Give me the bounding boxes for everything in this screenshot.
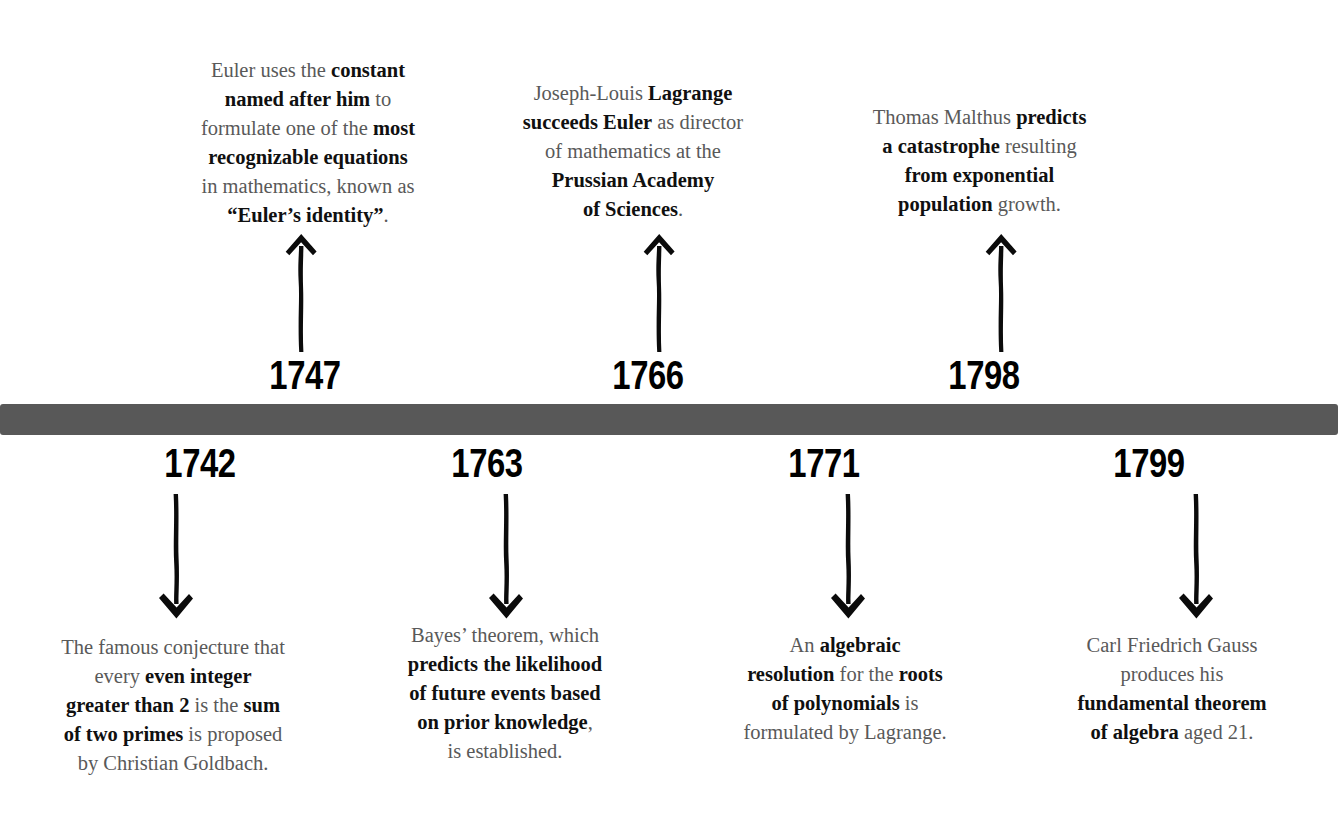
event-text-line: Euler uses the constant [143,56,473,85]
year-label-1742: 1742 [118,443,282,483]
timeline-spine-bar [0,404,1338,435]
body-text: formulate one of the [201,117,373,139]
event-text-line: formulated by Lagrange. [685,718,1005,747]
emphasis-text: constant [331,59,405,81]
body-text: is [900,692,919,714]
event-text-line: of polynomials is [685,689,1005,718]
year-label-1798: 1798 [902,355,1066,395]
up-arrow-icon [973,232,1029,354]
event-description-1798: Thomas Malthus predictsa catastrophe res… [822,103,1137,219]
body-text: produces his [1120,663,1223,685]
event-text-line: in mathematics, known as [143,172,473,201]
body-text: is established. [447,740,562,762]
event-text-line: of algebra aged 21. [1012,718,1332,747]
up-arrow-icon [273,232,329,354]
emphasis-text: Prussian Academy [552,169,714,191]
emphasis-text: even integer [145,665,251,687]
emphasis-text: sum [244,694,280,716]
event-text-line: resolution for the roots [685,660,1005,689]
body-text: Thomas Malthus [873,106,1017,128]
body-text: in mathematics, known as [202,175,415,197]
body-text: formulated by Lagrange. [743,721,946,743]
event-text-line: of mathematics at the [478,137,788,166]
event-text-line: An algebraic [685,631,1005,660]
emphasis-text: of future events based [409,682,601,704]
emphasis-text: predicts the likelihood [408,653,602,675]
event-text-line: greater than 2 is the sum [8,691,338,720]
emphasis-text: named after him [225,88,370,110]
event-description-1771: An algebraicresolution for the rootsof p… [685,631,1005,747]
event-text-line: named after him to [143,85,473,114]
event-text-line: fundamental theorem [1012,689,1332,718]
body-text: for the [834,663,898,685]
down-arrow-icon [820,492,876,620]
emphasis-text: Lagrange [648,82,732,104]
emphasis-text: succeeds Euler [523,111,652,133]
event-text-line: every even integer [8,662,338,691]
event-description-1747: Euler uses the constantnamed after him t… [143,56,473,230]
body-text: An [789,634,819,656]
emphasis-text: “Euler’s identity” [227,204,383,226]
body-text: as director [652,111,743,133]
body-text: to [370,88,391,110]
event-text-line: a catastrophe resulting [822,132,1137,161]
timeline-infographic: 1742The famous conjecture thatevery even… [0,0,1338,828]
event-text-line: produces his [1012,660,1332,689]
emphasis-text: greater than 2 [66,694,189,716]
event-text-line: The famous conjecture that [8,633,338,662]
event-text-line: Carl Friedrich Gauss [1012,631,1332,660]
event-text-line: of future events based [345,679,665,708]
event-text-line: Thomas Malthus predicts [822,103,1137,132]
emphasis-text: most [373,117,415,139]
body-text: of mathematics at the [545,140,721,162]
year-label-1771: 1771 [742,443,906,483]
event-text-line: Prussian Academy [478,166,788,195]
emphasis-text: recognizable equations [208,146,408,168]
year-label-1766: 1766 [566,355,730,395]
emphasis-text: on prior knowledge [417,711,587,733]
body-text: The famous conjecture that [61,636,285,658]
emphasis-text: from exponential [905,164,1054,186]
year-label-1799: 1799 [1067,443,1231,483]
event-text-line: “Euler’s identity”. [143,201,473,230]
body-text: growth. [993,193,1061,215]
body-text: aged 21. [1179,721,1254,743]
event-text-line: by Christian Goldbach. [8,749,338,778]
event-text-line: on prior knowledge, [345,708,665,737]
emphasis-text: population [898,193,993,215]
body-text: is proposed [183,723,282,745]
up-arrow-icon [631,232,687,354]
emphasis-text: algebraic [820,634,901,656]
emphasis-text: roots [899,663,943,685]
event-text-line: Bayes’ theorem, which [345,621,665,650]
event-description-1766: Joseph-Louis Lagrangesucceeds Euler as d… [478,79,788,224]
event-text-line: formulate one of the most [143,114,473,143]
event-text-line: is established. [345,737,665,766]
body-text: Carl Friedrich Gauss [1087,634,1258,656]
down-arrow-icon [478,492,534,620]
event-text-line: Joseph-Louis Lagrange [478,79,788,108]
event-description-1763: Bayes’ theorem, whichpredicts the likeli… [345,621,665,766]
event-text-line: recognizable equations [143,143,473,172]
emphasis-text: resolution [747,663,834,685]
year-label-1763: 1763 [405,443,569,483]
emphasis-text: predicts [1016,106,1086,128]
body-text: is the [189,694,243,716]
body-text: by Christian Goldbach. [78,752,269,774]
emphasis-text: of two primes [64,723,184,745]
event-text-line: of two primes is proposed [8,720,338,749]
event-text-line: from exponential [822,161,1137,190]
body-text: , [588,711,593,733]
body-text: . [384,204,389,226]
body-text: every [94,665,145,687]
down-arrow-icon [1168,492,1224,620]
event-description-1799: Carl Friedrich Gaussproduces hisfundamen… [1012,631,1332,747]
emphasis-text: of algebra [1091,721,1179,743]
down-arrow-icon [148,492,204,620]
body-text: resulting [1000,135,1077,157]
event-text-line: population growth. [822,190,1137,219]
event-text-line: predicts the likelihood [345,650,665,679]
body-text: Euler uses the [211,59,331,81]
event-text-line: of Sciences. [478,195,788,224]
emphasis-text: fundamental theorem [1077,692,1266,714]
